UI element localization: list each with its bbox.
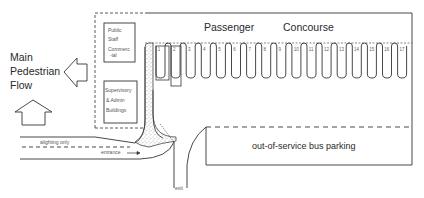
bay-number: 17 (399, 47, 404, 52)
pedestrian-flow-label-pedestrian: Pedestrian (10, 66, 60, 77)
building-top-line2: Staff (108, 37, 118, 42)
bay-number: 5 (218, 47, 221, 52)
bay-number: 6 (233, 47, 236, 52)
building-bottom-line2: & Admin (106, 98, 125, 103)
road-label-entrance: entrance (101, 150, 120, 155)
bay-number: 1 (158, 47, 161, 52)
parking-label: out-of-service bus parking (252, 142, 356, 151)
roads (20, 124, 412, 188)
bay-number: 2 (173, 47, 176, 52)
bay-number: 12 (324, 47, 329, 52)
bay-number: 11 (309, 47, 314, 52)
building-bottom-line3: Buildings (106, 108, 126, 113)
building-top-line4: -ial (110, 53, 117, 58)
bay-number: 7 (248, 47, 251, 52)
left-arrow-icon (64, 58, 87, 87)
road-label-alighting: alighting only (40, 140, 69, 145)
bay-number: 14 (354, 47, 359, 52)
bay-number: 4 (203, 47, 206, 52)
road-label-exit: exit (175, 186, 183, 191)
bay-number: 10 (294, 47, 299, 52)
bay-number: 8 (264, 47, 267, 52)
concourse-label-passenger: Passenger (204, 22, 254, 33)
bay-number: 3 (188, 47, 191, 52)
bay-number: 9 (279, 47, 282, 52)
bay-number: 16 (384, 47, 389, 52)
concourse-label-concourse: Concourse (283, 22, 334, 33)
entrance-arrow-icon (127, 152, 140, 155)
building-bottom-line1: Supervisory (105, 88, 131, 93)
up-arrow-icon (15, 100, 52, 125)
bay-number: 13 (339, 47, 344, 52)
pedestrian-flow-label-main: Main (10, 52, 33, 63)
bay-number: 15 (369, 47, 374, 52)
pedestrian-flow-label-flow: Flow (10, 80, 32, 91)
building-top-line1: Public (108, 28, 122, 33)
